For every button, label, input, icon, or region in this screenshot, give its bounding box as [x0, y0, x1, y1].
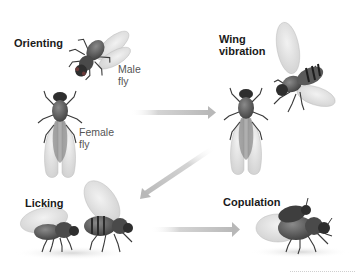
- arrow-licking-to-copulation: [150, 222, 240, 237]
- wing-vibration-line1: Wing: [219, 33, 265, 45]
- female-fly-label-line1: Female: [79, 126, 114, 138]
- stage-title-copulation: Copulation: [223, 196, 280, 208]
- male-fly-licking: [77, 174, 133, 252]
- stage-title-licking: Licking: [25, 197, 64, 209]
- stage-title-wing-vibration: Wing vibration: [219, 33, 265, 57]
- arrow-orienting-to-wing-vibration: [130, 106, 216, 119]
- male-fly-wing-vibration: [273, 20, 338, 112]
- female-fly-licking: [18, 203, 79, 252]
- arrow-wing-vibration-to-licking: [140, 147, 213, 199]
- male-fly-label-line1: Male: [118, 63, 141, 75]
- female-fly-wing-vibration: [224, 88, 268, 175]
- female-fly-label: Female fly: [79, 126, 114, 150]
- bottom-divider: [290, 271, 355, 272]
- female-fly-orienting: [38, 91, 82, 178]
- stage-title-orienting: Orienting: [14, 37, 63, 49]
- female-fly-label-line2: fly: [79, 138, 114, 150]
- licking-shadow: [14, 246, 130, 260]
- wing-vibration-line2: vibration: [219, 45, 265, 57]
- male-fly-label-line2: fly: [118, 75, 141, 87]
- male-fly-label: Male fly: [118, 63, 141, 87]
